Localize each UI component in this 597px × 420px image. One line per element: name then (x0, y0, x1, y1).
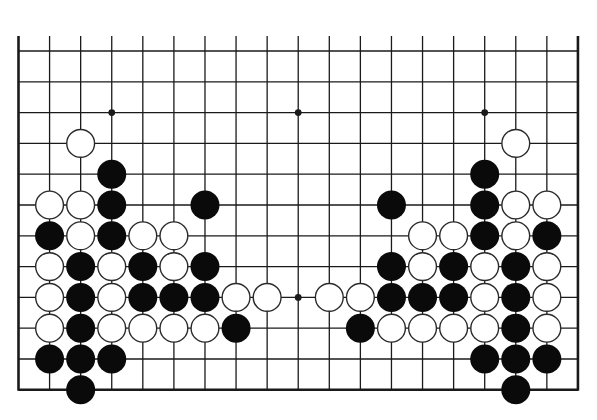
white-stone (98, 284, 126, 312)
star-point (295, 109, 302, 116)
black-stone (97, 345, 126, 374)
black-stone (66, 314, 95, 343)
black-stone (532, 221, 561, 250)
black-stone (190, 191, 219, 220)
black-stone (439, 252, 468, 281)
black-stone (501, 314, 530, 343)
star-point (295, 294, 302, 301)
white-stone (191, 314, 219, 342)
black-stone (97, 191, 126, 220)
black-stone (128, 283, 157, 312)
black-stone (470, 160, 499, 189)
black-stone (66, 252, 95, 281)
black-stone (97, 160, 126, 189)
white-stone (160, 222, 188, 250)
white-stone (502, 130, 530, 158)
black-stone (377, 252, 406, 281)
white-stone (409, 253, 437, 281)
white-stone (36, 253, 64, 281)
white-stone (129, 222, 157, 250)
star-point (481, 109, 488, 116)
white-stone (67, 191, 95, 219)
white-stone (409, 314, 437, 342)
white-stone (533, 284, 561, 312)
white-stone (36, 191, 64, 219)
black-stone (190, 252, 219, 281)
white-stone (36, 284, 64, 312)
white-stone (36, 314, 64, 342)
black-stone (346, 314, 375, 343)
black-stone (439, 283, 468, 312)
black-stone (35, 345, 64, 374)
white-stone (440, 222, 468, 250)
white-stone (129, 314, 157, 342)
black-stone (532, 345, 561, 374)
white-stone (378, 314, 406, 342)
black-stone (222, 314, 251, 343)
white-stone (67, 222, 95, 250)
black-stone (470, 345, 499, 374)
white-stone (533, 191, 561, 219)
black-stone (408, 283, 437, 312)
white-stone (67, 130, 95, 158)
white-stone (502, 191, 530, 219)
white-stone (409, 222, 437, 250)
black-stone (66, 375, 95, 404)
white-stone (346, 284, 374, 312)
white-stone (98, 314, 126, 342)
black-stone (501, 345, 530, 374)
black-stone (377, 283, 406, 312)
white-stone (160, 314, 188, 342)
white-stone (471, 253, 499, 281)
black-stone (501, 283, 530, 312)
black-stone (470, 191, 499, 220)
white-stone (502, 222, 530, 250)
black-stone (159, 283, 188, 312)
black-stone (66, 283, 95, 312)
white-stone (160, 253, 188, 281)
black-stone (128, 252, 157, 281)
white-stone (222, 284, 250, 312)
white-stone (315, 284, 343, 312)
black-stone (66, 345, 95, 374)
white-stone (253, 284, 281, 312)
white-stone (533, 253, 561, 281)
white-stone (98, 253, 126, 281)
black-stone (470, 221, 499, 250)
black-stone (501, 252, 530, 281)
black-stone (35, 221, 64, 250)
star-point (108, 109, 115, 116)
black-stone (501, 375, 530, 404)
white-stone (533, 314, 561, 342)
go-board (0, 0, 597, 420)
white-stone (440, 314, 468, 342)
black-stone (377, 191, 406, 220)
white-stone (471, 284, 499, 312)
black-stone (97, 221, 126, 250)
white-stone (471, 314, 499, 342)
black-stone (190, 283, 219, 312)
